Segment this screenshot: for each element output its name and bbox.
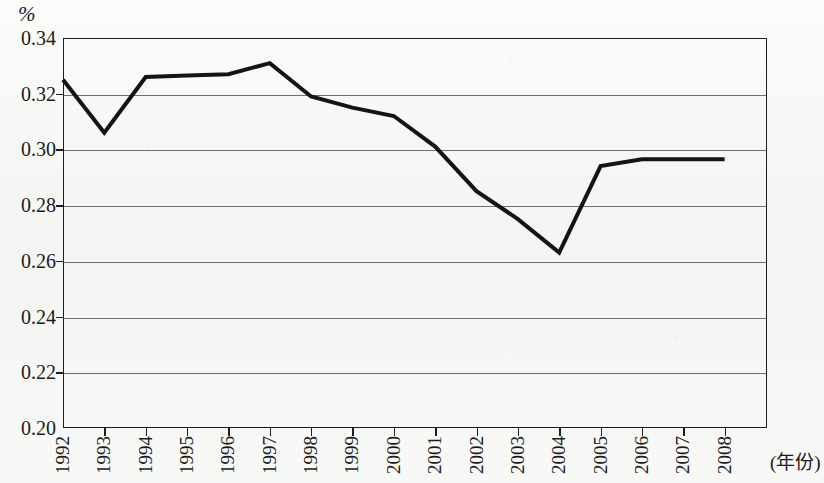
y-axis-tick-mark: [56, 149, 63, 150]
x-axis-tick-label: 2003: [508, 436, 527, 474]
x-axis-tick-label: 2002: [467, 436, 486, 474]
x-axis-tick-label: 2000: [384, 436, 403, 474]
gridline: [64, 150, 766, 151]
x-axis-tick-label: 2007: [673, 436, 692, 474]
y-axis-unit-label: %: [18, 2, 36, 27]
x-axis-tick-label: 2008: [715, 436, 734, 474]
x-axis-tick-mark: [146, 428, 147, 436]
x-axis-tick-mark: [311, 428, 312, 436]
x-axis-tick-mark: [104, 428, 105, 436]
y-axis-tick-label: 0.22: [0, 361, 56, 384]
x-axis-tick-mark: [394, 428, 395, 436]
x-axis-tick-label: 2001: [425, 436, 444, 474]
x-axis-title: (年份): [770, 447, 821, 474]
y-axis-tick-mark: [56, 261, 63, 262]
x-axis-tick-mark: [187, 428, 188, 436]
y-axis-tick-label: 0.34: [0, 27, 56, 50]
x-axis-tick-mark: [228, 428, 229, 436]
x-axis-tick-label: 2004: [549, 436, 568, 474]
y-axis-tick-mark: [56, 372, 63, 373]
y-axis-tick-label: 0.26: [0, 249, 56, 272]
gridline: [64, 262, 766, 263]
x-axis-tick-label: 1996: [218, 436, 237, 474]
x-axis-tick-mark: [352, 428, 353, 436]
gridline: [64, 95, 766, 96]
plot-area: [63, 38, 767, 428]
x-axis-tick-mark: [435, 428, 436, 436]
y-axis-tick-mark: [56, 94, 63, 95]
chart-page: % 0.340.320.300.280.260.240.220.20 19921…: [0, 0, 824, 483]
x-axis-tick-label: 1992: [53, 436, 72, 474]
x-axis-tick-label: 1998: [301, 436, 320, 474]
x-axis-tick-mark: [559, 428, 560, 436]
x-axis-tick-label: 2006: [632, 436, 651, 474]
y-axis-tick-mark: [56, 205, 63, 206]
x-axis-tick-label: 1995: [177, 436, 196, 474]
x-axis-tick-mark: [518, 428, 519, 436]
x-axis-tick-mark: [683, 428, 684, 436]
x-axis-tick-mark: [477, 428, 478, 436]
x-axis-tick-mark: [270, 428, 271, 436]
y-axis-tick-mark: [56, 317, 63, 318]
x-axis-tick-label: 1999: [342, 436, 361, 474]
x-axis-tick-mark: [725, 428, 726, 436]
gridline: [64, 318, 766, 319]
y-axis-tick-label: 0.30: [0, 138, 56, 161]
y-axis-tick-label: 0.20: [0, 417, 56, 440]
x-axis-tick-mark: [642, 428, 643, 436]
y-axis-tick-label: 0.28: [0, 194, 56, 217]
x-axis-tick-label: 1997: [260, 436, 279, 474]
x-axis-tick-mark: [601, 428, 602, 436]
y-axis-tick-label: 0.32: [0, 82, 56, 105]
gridline: [64, 206, 766, 207]
x-axis-tick-label: 1993: [94, 436, 113, 474]
x-axis-tick-label: 1994: [136, 436, 155, 474]
gridline: [64, 373, 766, 374]
x-axis-tick-label: 2005: [591, 436, 610, 474]
y-axis-tick-label: 0.24: [0, 305, 56, 328]
